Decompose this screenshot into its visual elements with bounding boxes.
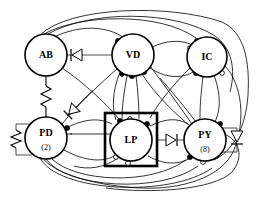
wire-pd-py-bottom-1 <box>52 159 186 178</box>
node-ic-label: IC <box>201 51 212 62</box>
node-py[interactable]: PY (8) <box>184 119 226 161</box>
wire-vd-bottom-py <box>142 74 190 126</box>
circuit-diagram-root: AB VD IC PD (2) LP PY (8) <box>0 0 256 199</box>
node-pd[interactable]: PD (2) <box>25 117 67 159</box>
node-lp-label: LP <box>125 134 138 145</box>
wire-ic-py <box>200 77 203 119</box>
node-ic[interactable]: IC <box>187 37 227 77</box>
node-pd-label: PD <box>39 127 52 138</box>
node-vd-label: VD <box>126 49 140 60</box>
node-ab[interactable]: AB <box>25 34 67 76</box>
node-py-label: PY <box>198 129 212 140</box>
wire-lp-py-upper <box>150 120 188 126</box>
node-ab-label: AB <box>39 49 53 60</box>
wire-vd-to-pd-diag <box>62 68 118 124</box>
circuit-svg: AB VD IC PD (2) LP PY (8) <box>0 0 256 199</box>
wire-ic-py-2 <box>214 75 219 124</box>
diode-pd-to-vd <box>63 86 97 120</box>
diode-vd-to-ab <box>67 49 112 61</box>
wire-vd-ic-upper <box>152 41 190 47</box>
node-pd-sublabel: (2) <box>41 143 51 152</box>
wire-pd-lp-lower <box>64 150 114 160</box>
node-py-sublabel: (8) <box>200 145 210 154</box>
wire-ab-to-vd-top <box>52 28 124 38</box>
node-vd[interactable]: VD <box>112 34 154 76</box>
node-lp[interactable]: LP <box>110 119 152 161</box>
diode-lp-to-py <box>157 134 185 146</box>
resistor-ab-pd <box>41 76 51 117</box>
